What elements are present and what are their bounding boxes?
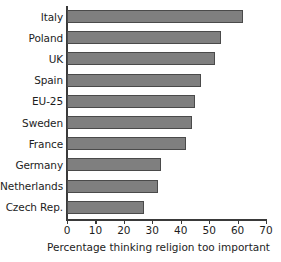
y-axis-label-row: Germany bbox=[0, 154, 63, 175]
y-axis-category-labels: Italy Poland UK Spain EU-25 Sweden Franc… bbox=[0, 6, 63, 218]
bar-row bbox=[67, 48, 266, 69]
bar-row bbox=[67, 176, 266, 197]
y-axis-tick-label: Czech Rep. bbox=[6, 201, 63, 213]
y-axis-tick-label: France bbox=[29, 138, 63, 150]
y-axis-label-row: UK bbox=[0, 48, 63, 69]
y-axis-label-row: Czech Rep. bbox=[0, 197, 63, 218]
x-axis-tick-label: 50 bbox=[202, 224, 215, 236]
x-axis-tick-label: 30 bbox=[146, 224, 159, 236]
bar-row bbox=[67, 154, 266, 175]
bar bbox=[67, 158, 161, 171]
bar-row bbox=[67, 27, 266, 48]
y-axis-label-row: Netherlands bbox=[0, 176, 63, 197]
y-axis-tick-label: Italy bbox=[41, 11, 63, 23]
y-axis-tick-label: Netherlands bbox=[0, 180, 63, 192]
x-axis-tick-label: 10 bbox=[89, 224, 102, 236]
bar-row bbox=[67, 70, 266, 91]
x-axis-title-text: Percentage thinking religion too importa… bbox=[11, 241, 270, 253]
y-axis-label-row: Spain bbox=[0, 70, 63, 91]
bar bbox=[67, 10, 243, 23]
plot-area bbox=[67, 6, 266, 218]
bar bbox=[67, 52, 215, 65]
x-axis-ticks: 0 10 20 30 40 50 60 70 bbox=[67, 220, 266, 236]
bar-row bbox=[67, 91, 266, 112]
x-axis-title: Percentage thinking religion too importa… bbox=[0, 241, 281, 253]
bar bbox=[67, 74, 201, 87]
bar-row bbox=[67, 133, 266, 154]
bar-chart: Italy Poland UK Spain EU-25 Sweden Franc… bbox=[0, 0, 281, 262]
y-axis-label-row: Italy bbox=[0, 6, 63, 27]
y-axis-tick-label: Spain bbox=[34, 74, 63, 86]
bar bbox=[67, 31, 221, 44]
bar bbox=[67, 116, 192, 129]
x-axis-tick-label: 70 bbox=[259, 224, 272, 236]
bar bbox=[67, 95, 195, 108]
y-axis-tick-label: Poland bbox=[29, 32, 63, 44]
x-axis-tick-label: 20 bbox=[117, 224, 130, 236]
y-axis-label-row: EU-25 bbox=[0, 91, 63, 112]
y-axis-tick-label: Germany bbox=[15, 159, 63, 171]
x-axis-tick-label: 0 bbox=[64, 224, 71, 236]
x-axis-tick-label: 60 bbox=[231, 224, 244, 236]
bar bbox=[67, 201, 144, 214]
bar-row bbox=[67, 197, 266, 218]
y-axis-label-row: Poland bbox=[0, 27, 63, 48]
y-axis-label-row: France bbox=[0, 133, 63, 154]
bar bbox=[67, 137, 186, 150]
y-axis-tick-label: EU-25 bbox=[32, 95, 63, 107]
y-axis-tick-label: UK bbox=[49, 53, 63, 65]
bar-row bbox=[67, 6, 266, 27]
y-axis-tick-label: Sweden bbox=[22, 117, 63, 129]
x-axis-tick-label: 40 bbox=[174, 224, 187, 236]
bar-rows bbox=[67, 6, 266, 218]
bar bbox=[67, 180, 158, 193]
bar-row bbox=[67, 112, 266, 133]
y-axis-label-row: Sweden bbox=[0, 112, 63, 133]
